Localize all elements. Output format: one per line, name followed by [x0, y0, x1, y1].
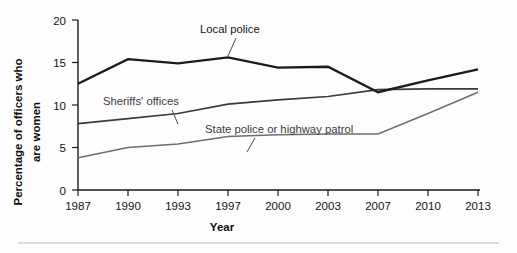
x-tick-label-2010: 2010 — [415, 200, 441, 212]
x-tick-label-1987: 1987 — [65, 200, 91, 212]
y-tick-label-0: 0 — [60, 185, 66, 197]
series-line-local-police — [78, 57, 478, 92]
leader-line-local-police — [228, 38, 236, 56]
x-tick-marks — [78, 190, 478, 196]
leader-line-state-police — [247, 138, 255, 152]
y-axis-title-line2: are women — [30, 102, 42, 162]
chart-figure: Percentage of officers who are women 20 … — [0, 0, 517, 253]
leader-line-sheriffs-offices — [172, 110, 178, 124]
x-axis-title: Year — [210, 221, 235, 233]
y-tick-label-10: 10 — [53, 100, 66, 112]
y-tick-label-15: 15 — [53, 57, 66, 69]
x-tick-label-1997: 1997 — [215, 200, 241, 212]
annotation-local-police: Local police — [200, 23, 260, 35]
x-tick-label-1993: 1993 — [165, 200, 191, 212]
y-tick-label-20: 20 — [53, 15, 66, 27]
x-tick-label-2013: 2013 — [465, 200, 491, 212]
y-tick-label-5: 5 — [60, 142, 66, 154]
y-tick-marks — [72, 20, 78, 190]
x-tick-label-2000: 2000 — [265, 200, 291, 212]
annotation-sheriffs-offices: Sheriffs' offices — [103, 95, 179, 107]
x-tick-label-2007: 2007 — [365, 200, 391, 212]
y-axis-title-line1: Percentage of officers who — [12, 59, 24, 206]
annotation-state-police: State police or highway patrol — [205, 123, 353, 135]
line-chart: Percentage of officers who are women 20 … — [0, 0, 517, 253]
x-tick-label-1990: 1990 — [115, 200, 141, 212]
x-tick-label-2003: 2003 — [315, 200, 341, 212]
